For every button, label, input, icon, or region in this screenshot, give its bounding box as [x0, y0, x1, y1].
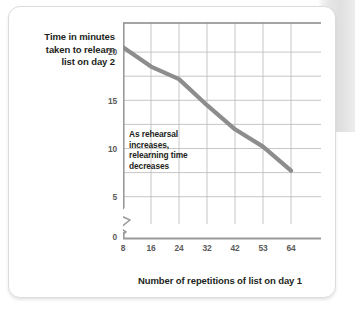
- x-tick-label-8: 8: [112, 243, 134, 253]
- chart-annotation-line-4: decreases: [129, 161, 217, 172]
- line-chart: Time in minutes taken to relearn list on…: [9, 7, 335, 297]
- chart-annotation-line-3: relearning time: [129, 150, 217, 161]
- y-axis-break-symbol: [123, 208, 130, 234]
- x-tick-label-16: 16: [140, 243, 162, 253]
- y-tick-label-10: 10: [95, 144, 117, 154]
- y-tick-label-20: 20: [95, 47, 117, 57]
- x-tick-label-24: 24: [168, 243, 190, 253]
- x-axis-title: Number of repetitions of list on day 1: [105, 275, 335, 286]
- x-tick-label-53: 53: [252, 243, 274, 253]
- chart-annotation-line-1: As rehearsal: [129, 129, 217, 140]
- x-tick-label-42: 42: [224, 243, 246, 253]
- page-root: Time in minutes taken to relearn list on…: [0, 0, 355, 311]
- y-tick-label-5: 5: [95, 192, 117, 202]
- chart-annotation-line-2: increases,: [129, 140, 217, 151]
- y-tick-label-0: 0: [95, 232, 117, 242]
- y-axis-title-line-3: list on day 2: [15, 56, 115, 69]
- y-tick-label-15: 15: [95, 96, 117, 106]
- x-tick-label-64: 64: [280, 243, 302, 253]
- y-axis-title-line-1: Time in minutes: [15, 31, 115, 44]
- x-tick-label-32: 32: [196, 243, 218, 253]
- chart-annotation: As rehearsal increases, relearning time …: [129, 129, 217, 171]
- figure-card: Time in minutes taken to relearn list on…: [8, 6, 336, 298]
